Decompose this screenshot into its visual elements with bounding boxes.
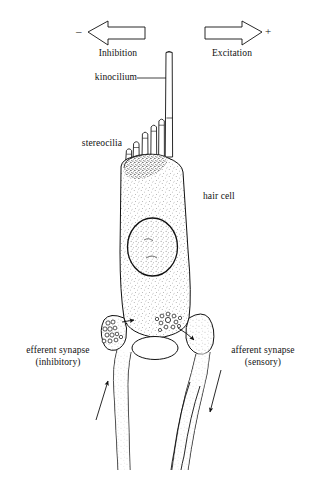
afferent-fiber-direction-arrow <box>210 370 221 412</box>
efferent-fiber-direction-arrow <box>96 381 108 420</box>
efferent-synapse-label: efferent synapse (inhibitory) <box>6 345 110 368</box>
efferent-nerve-fiber <box>113 350 131 470</box>
afferent-synapse-label-line1: afferent synapse <box>212 345 314 357</box>
afferent-nerve-fiber <box>171 352 210 470</box>
nucleus <box>128 218 178 276</box>
kinocilium-shaft <box>165 51 172 157</box>
excitation-arrow-icon <box>205 21 262 45</box>
inhibition-arrow-icon <box>88 21 145 45</box>
hair-cell-label: hair cell <box>203 191 235 202</box>
inhibition-sign: – <box>76 25 82 37</box>
inhibition-label: Inhibition <box>78 48 158 59</box>
afferent-synapse-label: afferent synapse (sensory) <box>212 345 314 368</box>
excitation-label: Excitation <box>192 48 272 59</box>
basal-body-vesicle <box>132 337 178 360</box>
efferent-synapse-label-line1: efferent synapse <box>6 345 110 357</box>
stereocilia-label: stereocilia <box>42 138 122 149</box>
efferent-synapse-label-line2: (inhibitory) <box>6 357 110 369</box>
hair-cell-figure: – Inhibition + Excitation kinocilium ste… <box>0 0 317 478</box>
diagram-canvas <box>0 0 317 478</box>
kinocilium-label: kinocilium <box>57 72 137 83</box>
afferent-synapse-label-line2: (sensory) <box>212 357 314 369</box>
excitation-sign: + <box>265 25 271 37</box>
